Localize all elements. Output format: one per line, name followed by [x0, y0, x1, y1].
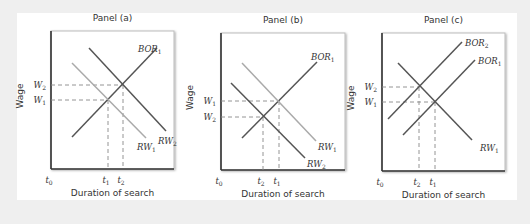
y-tick-label: W2 — [33, 80, 46, 91]
y-axis-label: Wage — [15, 83, 25, 109]
y-axis-label: Wage — [346, 85, 356, 111]
chart-svg: BOR1RW1RW2Panel (a)Duration of searchWag… — [0, 0, 530, 224]
x-axis-label: Duration of search — [71, 188, 154, 198]
x-tick-label: t0 — [376, 177, 383, 188]
x-axis-label: Duration of search — [241, 189, 324, 199]
panel-title: Panel (a) — [93, 13, 133, 23]
x-tick-label: t2 — [257, 176, 264, 187]
panel-b: BOR1RW1RW2Panel (b)Duration of searchWag… — [185, 15, 345, 199]
x-tick-label: t0 — [45, 175, 52, 186]
x-tick-label: t1 — [273, 176, 280, 187]
y-tick-label: W2 — [364, 82, 377, 93]
x-tick-label: t0 — [215, 176, 222, 187]
panel-a: BOR1RW1RW2Panel (a)Duration of searchWag… — [15, 13, 177, 198]
panel-title: Panel (b) — [263, 15, 303, 25]
y-axis-label: Wage — [185, 84, 195, 110]
panel-c: BOR2BOR1RW1Panel (c)Duration of searchWa… — [346, 15, 505, 200]
y-tick-label: W1 — [33, 95, 46, 106]
x-tick-label: t2 — [413, 177, 420, 188]
y-tick-label: W1 — [364, 97, 377, 108]
x-tick-label: t1 — [429, 177, 436, 188]
x-axis-label: Duration of search — [402, 190, 485, 200]
y-tick-label: W1 — [203, 96, 216, 107]
y-tick-label: W2 — [203, 112, 216, 123]
x-tick-label: t1 — [102, 175, 109, 186]
x-tick-label: t2 — [117, 175, 124, 186]
panel-title: Panel (c) — [424, 15, 463, 25]
